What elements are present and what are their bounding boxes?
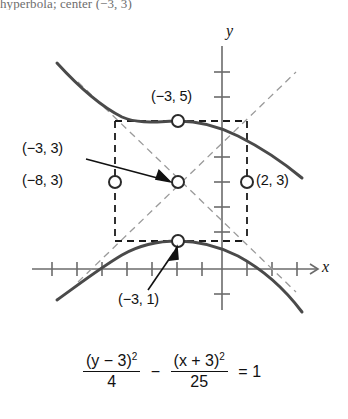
arrow-center-line — [86, 159, 165, 180]
fraction-right-exponent: 2 — [219, 351, 225, 362]
fraction-right-numerator-text: (x + 3) — [174, 352, 220, 369]
marker-left-point — [109, 176, 121, 188]
fraction-left-exponent: 2 — [132, 351, 138, 362]
x-axis-label: x — [322, 258, 329, 276]
label-vertex-top: (−3, 5) — [151, 88, 192, 104]
fraction-right-denominator: 25 — [171, 372, 228, 391]
fraction-right: (x + 3)2 25 — [171, 352, 228, 391]
minus-operator: − — [146, 363, 165, 381]
equation: (y − 3)2 4 − (x + 3)2 25 = 1 — [0, 352, 348, 391]
fraction-left-denominator: 4 — [83, 372, 140, 391]
label-center: (−3, 3) — [22, 140, 63, 156]
fraction-right-numerator: (x + 3)2 — [171, 352, 228, 372]
fraction-left-numerator: (y − 3)2 — [83, 352, 140, 372]
label-left-point: (−8, 3) — [22, 172, 63, 188]
label-right-point: (2, 3) — [256, 172, 289, 188]
hyperbola-figure: hyperbola; center (−3, 3) — [0, 0, 348, 419]
marker-right-point — [241, 176, 253, 188]
marker-vertex-bottom — [172, 235, 184, 247]
arrow-bottom-head — [170, 247, 178, 260]
fraction-left: (y − 3)2 4 — [83, 352, 140, 391]
arrow-center-head — [156, 170, 170, 181]
lower-branch — [57, 241, 302, 312]
label-vertex-bottom: (−3, 1) — [118, 291, 159, 307]
point-markers — [109, 115, 253, 247]
fraction-left-numerator-text: (y − 3) — [86, 352, 132, 369]
marker-center — [172, 176, 184, 188]
marker-vertex-top — [172, 115, 184, 127]
equals-one: = 1 — [233, 363, 266, 381]
y-axis-label: y — [226, 22, 233, 40]
